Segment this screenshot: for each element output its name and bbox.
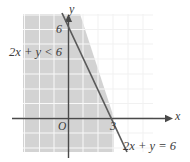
graph-canvas xyxy=(0,0,190,162)
shaded-solution-region xyxy=(23,14,153,152)
equation-label: 2x + y = 6 xyxy=(123,140,176,153)
inequality-label: 2x + y < 6 xyxy=(9,46,62,59)
linear-inequality-figure: 2x + y < 6 2x + y = 6 y x O 6 3 xyxy=(0,0,190,162)
origin-label: O xyxy=(58,121,66,133)
x-intercept-label: 3 xyxy=(110,120,116,132)
x-axis-label: x xyxy=(175,110,180,122)
y-intercept-label: 6 xyxy=(56,23,62,35)
y-axis-label: y xyxy=(69,3,74,15)
